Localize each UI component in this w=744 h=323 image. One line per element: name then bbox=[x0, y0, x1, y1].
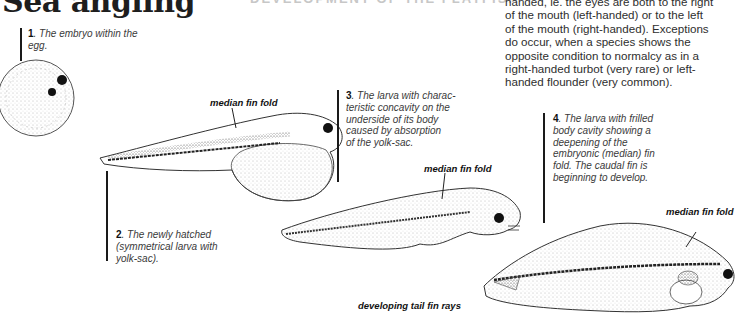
caption-stage-2: 2. The newly hatched (symmetrical larva … bbox=[116, 229, 256, 264]
caption-bar-4 bbox=[543, 113, 545, 223]
caption-stage-4: 4. The larva with frilled body cavity sh… bbox=[553, 113, 693, 184]
hatched-larva-illustration bbox=[100, 108, 342, 201]
caption-bar-1 bbox=[20, 28, 22, 61]
caption-stage-1: 1. The embryo within the egg. bbox=[28, 28, 138, 52]
label-median-fin-fold-stage2: median fin fold bbox=[210, 97, 278, 108]
larva-frilled-illustration bbox=[484, 223, 734, 312]
label-median-fin-fold-stage4: median fin fold bbox=[666, 206, 734, 217]
caption-bar-2 bbox=[106, 171, 108, 261]
label-median-fin-fold-stage3: median fin fold bbox=[424, 163, 492, 174]
egg-illustration bbox=[0, 60, 74, 136]
label-developing-tail-fin-rays: developing tail fin rays bbox=[358, 300, 461, 311]
caption-stage-3: 3. The larva with charac- teristic conca… bbox=[346, 90, 486, 149]
caption-bar-3 bbox=[337, 90, 339, 182]
